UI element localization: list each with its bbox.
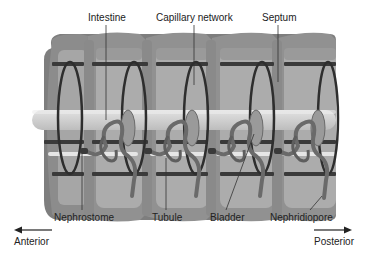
label-septum: Septum xyxy=(262,12,296,24)
anterior-arrow-icon xyxy=(14,227,52,234)
label-bladder: Bladder xyxy=(210,212,244,224)
posterior-arrow-icon xyxy=(314,227,352,234)
label-posterior: Posterior xyxy=(314,236,354,248)
label-nephrostome: Nephrostome xyxy=(54,212,114,224)
label-anterior: Anterior xyxy=(14,236,49,248)
label-nephridiopore: Nephridiopore xyxy=(270,212,333,224)
label-intestine: Intestine xyxy=(88,12,126,24)
nephridia-diagram: Intestine Capillary network Septum Nephr… xyxy=(0,0,372,256)
label-capillary-network: Capillary network xyxy=(156,12,233,24)
label-tubule: Tubule xyxy=(152,212,182,224)
